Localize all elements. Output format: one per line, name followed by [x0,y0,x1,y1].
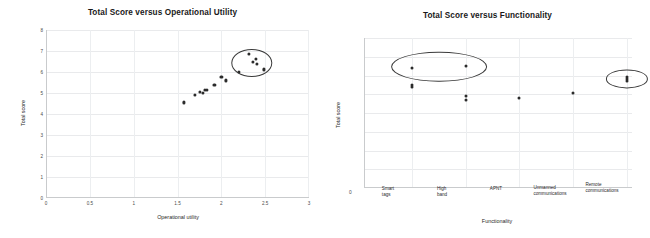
y-tick-label: 8 [40,28,43,33]
gridline-horizontal [364,94,632,95]
x-tick-label: 0.5 [87,201,93,206]
data-point [464,99,467,102]
scatter-plot-figure: Total Score versus Operational Utility 0… [0,0,650,238]
chart-title-functionality: Total Score versus Functionality [325,11,650,20]
data-point [411,85,414,88]
y-tick-label: 1 [40,175,43,180]
y-axis-line [364,38,365,188]
y-axis-title-functionality: Total score [335,95,341,135]
y-tick-label: 5 [40,91,43,96]
y-axis-title-operational-utility: Total score [20,93,26,133]
gridline-vertical [519,38,520,188]
gridline-vertical [308,30,309,198]
y-tick-label: 6 [40,70,43,75]
data-point [193,94,196,97]
data-point [464,95,467,98]
data-point [182,101,185,104]
chart-panel-operational-utility: Total Score versus Operational Utility 0… [0,0,325,238]
data-point [213,83,216,86]
gridline-horizontal [364,38,632,39]
category-label-high-band: High band [437,186,447,197]
plot-area-operational-utility: 0 1 2 3 4 5 6 7 8 0 0.5 1 1.5 2 2.5 3 [46,30,309,198]
x-tick-label: 3 [308,201,311,206]
gridline-vertical [627,38,628,188]
gridline-horizontal [364,132,632,133]
gridline-vertical [178,30,179,198]
data-point [572,92,575,95]
gridline-vertical [573,38,574,188]
data-point [206,88,209,91]
data-point [518,96,521,99]
y-axis-line [46,30,47,198]
x-tick-label: 1.5 [174,201,180,206]
gridline-horizontal [364,113,632,114]
y-tick-label: 7 [40,49,43,54]
x-tick-label: 0 [45,201,48,206]
gridline-horizontal [364,151,632,152]
data-point [224,79,227,82]
gridline-vertical [134,30,135,198]
category-label-remote-communications: Remote communications [585,182,618,193]
cluster-ellipse-remote-comms [606,69,648,88]
x-axis-line [46,197,309,198]
y-tick-label: 3 [40,133,43,138]
x-tick-label: 2.5 [262,201,268,206]
x-axis-title-operational-utility: Operational utility [157,214,199,220]
category-label-smart-tags: Smart tags [382,186,394,197]
chart-title-operational-utility: Total Score versus Operational Utility [0,8,325,17]
plot-area-functionality [364,38,632,188]
gridline-vertical [90,30,91,198]
gridline-horizontal [364,169,632,170]
x-tick-label: 1 [132,201,135,206]
x-tick-label: 2 [220,201,223,206]
x-axis-title-functionality: Functionality [482,218,512,224]
y-tick-label: 2 [40,154,43,159]
chart-panel-functionality: Total Score versus Functionality [325,0,650,238]
category-label-unmanned-communications: Unmanned communications [533,185,566,196]
y-tick-label: 4 [40,112,43,117]
category-label-apnt: APNT [490,186,502,192]
origin-zero-label: 0 [349,190,352,195]
y-tick-label: 0 [40,196,43,201]
gridline-vertical [221,30,222,198]
data-point [220,75,223,78]
cluster-ellipse-top-performers [391,52,487,83]
